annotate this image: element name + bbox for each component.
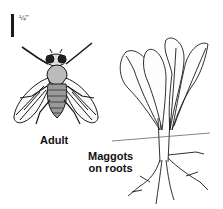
maggots-label-line1: Maggots [88,150,133,162]
illustration-canvas [0,0,223,209]
fly-adult-icon [14,43,98,124]
maggots-label: Maggots on roots [88,150,133,174]
adult-label: Adult [40,134,68,146]
maggots-label-line2: on roots [88,162,133,174]
plant-with-roots-icon [112,38,210,204]
